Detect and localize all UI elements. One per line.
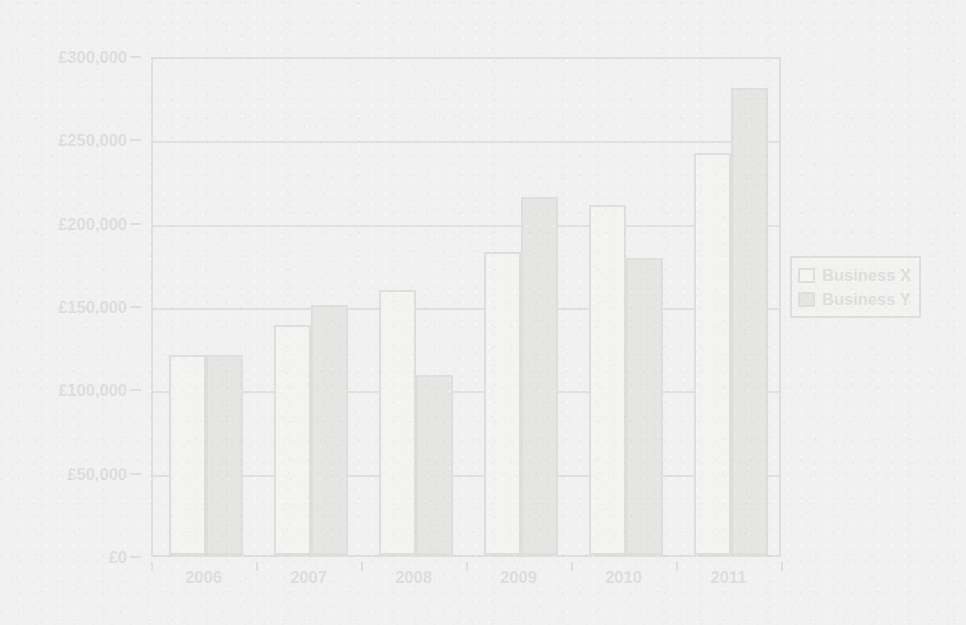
x-axis-tick-label: 2010 — [605, 568, 642, 587]
bar-2011-business-y — [731, 88, 768, 555]
legend-label-business-y: Business Y — [822, 290, 911, 309]
x-axis-tick-label: 2006 — [185, 568, 222, 587]
bar-2007-business-x — [274, 325, 311, 555]
y-axis-tick-label: £0 — [109, 548, 127, 567]
y-axis-tick-label: £100,000 — [58, 381, 127, 400]
legend-item-business-x[interactable]: Business X — [798, 263, 911, 287]
legend-item-business-y[interactable]: Business Y — [798, 287, 911, 311]
bar-chart-figure: £0£50,000£100,000£150,000£200,000£250,00… — [0, 0, 966, 625]
x-axis-tick-mark — [676, 562, 678, 571]
y-axis: £0£50,000£100,000£150,000£200,000£250,00… — [0, 57, 141, 557]
bar-2010-business-x — [589, 205, 626, 555]
bar-2008-business-x — [379, 290, 416, 555]
legend-label-business-x: Business X — [822, 266, 911, 285]
x-axis-tick-mark — [256, 562, 258, 571]
bar-2011-business-x — [694, 153, 731, 555]
y-axis-tick-mark — [130, 556, 141, 558]
y-axis-tick-label: £150,000 — [58, 298, 127, 317]
x-axis-tick-label: 2007 — [290, 568, 327, 587]
bar-2007-business-y — [311, 305, 348, 555]
x-axis-tick-mark — [571, 562, 573, 571]
x-axis: 200620072008200920102011 — [151, 562, 781, 602]
y-axis-tick-mark — [130, 389, 141, 391]
y-axis-tick-label: £200,000 — [58, 214, 127, 233]
y-axis-tick-mark — [130, 306, 141, 308]
x-axis-tick-label: 2009 — [500, 568, 537, 587]
y-axis-tick-mark — [130, 223, 141, 225]
bar-2010-business-y — [626, 258, 663, 555]
x-axis-tick-mark — [466, 562, 468, 571]
y-axis-tick-label: £300,000 — [58, 48, 127, 67]
plot-area — [151, 57, 781, 557]
x-axis-tick-mark — [361, 562, 363, 571]
y-axis-tick-label: £50,000 — [67, 464, 127, 483]
x-axis-tick-mark — [781, 562, 783, 571]
y-axis-tick-label: £250,000 — [58, 131, 127, 150]
legend-swatch-business-y — [798, 292, 815, 307]
bar-2006-business-y — [206, 355, 243, 555]
chart-legend: Business X Business Y — [790, 256, 921, 318]
bar-2006-business-x — [169, 355, 206, 555]
x-axis-tick-label: 2011 — [711, 568, 747, 587]
bar-2008-business-y — [416, 375, 453, 555]
x-axis-tick-label: 2008 — [395, 568, 432, 587]
legend-swatch-business-x — [798, 268, 815, 283]
y-axis-tick-mark — [130, 139, 141, 141]
bar-2009-business-x — [484, 252, 521, 555]
y-axis-tick-mark — [130, 473, 141, 475]
bars-layer — [153, 59, 779, 555]
y-axis-tick-mark — [130, 56, 141, 58]
x-axis-tick-mark — [151, 562, 153, 571]
bar-2009-business-y — [521, 197, 558, 555]
